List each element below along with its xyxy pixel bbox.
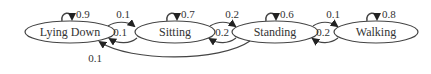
self-loop-sitting: 0.7 [167, 8, 195, 21]
self-loop-standing: 0.6 [266, 8, 294, 21]
edge-lying-down-to-sitting: 0.1 [108, 8, 134, 26]
state-transition-diagram: Lying Down 0.9 Sitting 0.7 Standing 0.6 [0, 0, 431, 74]
self-loop-walking: 0.8 [367, 8, 396, 21]
node-label: Lying Down [40, 25, 100, 39]
edge-label: 0.8 [382, 8, 396, 20]
edge-label: 0.1 [116, 8, 130, 20]
edge-sitting-to-lying-down: 0.1 [110, 26, 137, 43]
node-lying-down: Lying Down [25, 21, 115, 43]
node-sitting: Sitting [135, 21, 215, 43]
node-label: Standing [254, 25, 297, 39]
edge-sitting-to-standing: 0.2 [210, 8, 239, 26]
edge-label: 0.1 [326, 8, 340, 20]
node-label: Walking [356, 25, 396, 39]
edge-standing-to-lying-down: 0.1 [88, 41, 250, 64]
self-loop-lying-down: 0.9 [62, 8, 90, 21]
edge-label: 0.2 [215, 26, 229, 38]
node-walking: Walking [334, 21, 418, 43]
edge-label: 0.1 [113, 26, 127, 38]
edge-label: 0.2 [316, 26, 330, 38]
node-label: Sitting [159, 25, 191, 39]
node-standing: Standing [232, 21, 318, 43]
edge-label: 0.9 [76, 8, 90, 20]
edge-label: 0.6 [280, 8, 294, 20]
edge-label: 0.7 [181, 8, 195, 20]
edge-label: 0.1 [88, 52, 102, 64]
edge-label: 0.2 [225, 8, 239, 20]
edge-standing-to-walking: 0.1 [313, 8, 340, 26]
